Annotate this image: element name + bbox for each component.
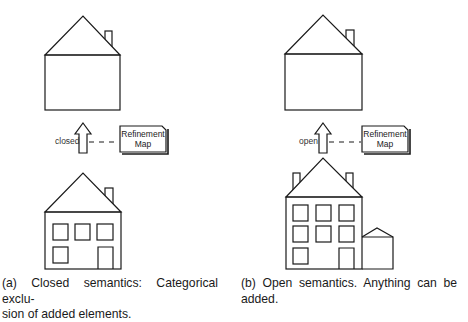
refinement-map-line1: Refinement [362, 129, 408, 139]
window [53, 247, 68, 263]
refinement-map-line1: Refinement [120, 129, 166, 139]
panel-a-top-house [45, 16, 120, 110]
panel-b-bottom-house [286, 158, 393, 269]
refinement-map-line2: Map [362, 139, 408, 149]
panel-a-bottom-house [45, 173, 121, 269]
window [293, 248, 308, 264]
annex-building [362, 228, 393, 269]
caption-b: (b) Open semantics. Anything can be adde… [241, 276, 457, 307]
refinement-map-label-a: Refinement Map [120, 129, 166, 149]
caption-a: (a) Closed semantics: Categorical exclu-… [2, 276, 218, 322]
closed-label: closed [55, 136, 80, 146]
window [53, 224, 68, 240]
window [293, 226, 308, 242]
window [75, 224, 90, 240]
open-label: open [299, 136, 318, 146]
refinement-map-line2: Map [120, 139, 166, 149]
house-body [286, 197, 362, 269]
door [98, 247, 113, 269]
house-body [285, 54, 362, 110]
window [339, 205, 354, 221]
caption-b-line1: (b) Open semantics. Anything can be [241, 276, 457, 292]
window [316, 205, 331, 221]
window [293, 205, 308, 221]
caption-a-line2: sion of added elements. [2, 307, 218, 322]
panel-b-top-house [285, 15, 362, 110]
house-body [45, 55, 120, 110]
caption-b-line2: added. [241, 292, 457, 308]
door [339, 248, 354, 269]
refinement-map-label-b: Refinement Map [362, 129, 408, 149]
caption-a-line1: (a) Closed semantics: Categorical exclu- [2, 276, 218, 307]
window [339, 226, 354, 242]
window [97, 224, 113, 240]
window [316, 226, 331, 242]
